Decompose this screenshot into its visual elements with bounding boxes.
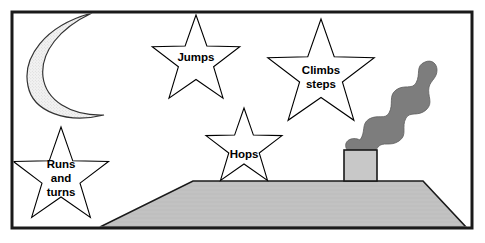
star-runs-and-turns-label-line: and	[51, 172, 71, 184]
star-runs-and-turns-label-line: turns	[47, 186, 76, 198]
night-scene-illustration: JumpsClimbsstepsHopsRunsandturns	[0, 0, 485, 243]
star-runs-and-turns-label: Runsandturns	[47, 158, 76, 198]
star-climbs-steps-label-line: Climbs	[302, 64, 340, 76]
star-hops-label-line: Hops	[230, 148, 259, 160]
star-climbs-steps-label-line: steps	[306, 78, 336, 90]
star-hops-label: Hops	[230, 148, 259, 160]
chimney-block	[344, 150, 377, 181]
figure-canvas: JumpsClimbsstepsHopsRunsandturns	[0, 0, 485, 243]
star-runs-and-turns-label-line: Runs	[47, 158, 76, 170]
star-jumps-label-line: Jumps	[177, 51, 214, 63]
star-jumps-label: Jumps	[177, 51, 214, 63]
scene-contents: JumpsClimbsstepsHopsRunsandturns	[13, 13, 471, 227]
